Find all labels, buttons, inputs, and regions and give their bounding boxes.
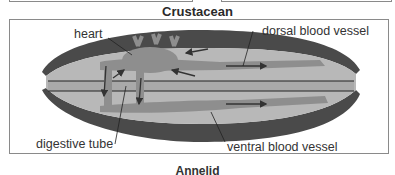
label-digestive-tube: digestive tube bbox=[36, 137, 113, 151]
next-panel-title: Annelid bbox=[0, 164, 395, 175]
label-heart: heart bbox=[74, 27, 103, 41]
heart-shape bbox=[122, 47, 178, 73]
label-ventral-blood-vessel: ventral blood vessel bbox=[227, 140, 337, 154]
label-dorsal-blood-vessel: dorsal blood vessel bbox=[262, 24, 369, 38]
